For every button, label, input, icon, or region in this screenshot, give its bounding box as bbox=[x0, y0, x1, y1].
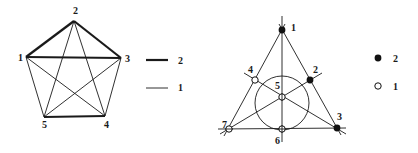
k5-graph: 1 2 3 4 5 bbox=[18, 5, 130, 130]
edge-3-5 bbox=[44, 58, 121, 117]
edge-1-4 bbox=[26, 57, 105, 116]
line-4-5-3 bbox=[244, 73, 346, 134]
point-1-filled bbox=[279, 27, 286, 34]
edge-2-5 bbox=[44, 21, 74, 117]
point-label-1: 1 bbox=[291, 22, 296, 33]
vertex-label-2: 2 bbox=[73, 5, 78, 16]
diagram-canvas: 1 2 3 4 5 2 1 1 bbox=[0, 0, 418, 153]
point-label-7: 7 bbox=[222, 119, 227, 130]
line-7-5-2 bbox=[220, 73, 322, 134]
edge-5-4 bbox=[44, 116, 105, 117]
point-4-hollow bbox=[252, 77, 258, 83]
edge-weight-legend: 2 1 bbox=[146, 55, 183, 93]
point-label-2: 2 bbox=[313, 64, 318, 75]
legend-filled-dot-icon bbox=[375, 55, 382, 62]
legend-hollow-dot-icon bbox=[375, 83, 381, 89]
edge-3-4 bbox=[105, 58, 121, 116]
legend-label-filled: 2 bbox=[393, 53, 398, 64]
point-2-filled bbox=[307, 77, 314, 84]
fano-plane: 1 2 3 4 5 6 7 bbox=[218, 16, 346, 146]
vertex-label-1: 1 bbox=[18, 52, 23, 63]
point-label-6: 6 bbox=[275, 135, 280, 146]
vertex-label-5: 5 bbox=[42, 119, 47, 130]
edge-1-3 bbox=[26, 57, 121, 58]
legend-label-thick: 2 bbox=[178, 55, 183, 66]
edge-2-3 bbox=[74, 21, 121, 58]
legend-label-thin: 1 bbox=[178, 82, 183, 93]
vertex-label-3: 3 bbox=[125, 53, 130, 64]
point-label-5: 5 bbox=[275, 80, 280, 91]
point-label-3: 3 bbox=[337, 111, 342, 122]
point-label-4: 4 bbox=[248, 64, 253, 75]
edge-2-4 bbox=[74, 21, 105, 116]
edge-1-2 bbox=[26, 21, 74, 57]
point-weight-legend: 2 1 bbox=[375, 53, 398, 92]
vertex-label-4: 4 bbox=[104, 119, 109, 130]
point-3-filled bbox=[334, 125, 341, 132]
legend-label-hollow: 1 bbox=[393, 81, 398, 92]
edge-1-5 bbox=[26, 57, 44, 117]
